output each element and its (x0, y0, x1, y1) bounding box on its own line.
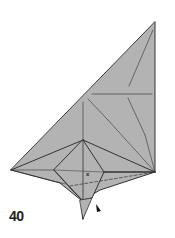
step-number: 40 (9, 208, 24, 224)
push-arrow-icon (96, 204, 101, 212)
paper-model (11, 22, 155, 219)
origami-diagram: x (0, 0, 175, 238)
bottom-tip (80, 198, 92, 219)
